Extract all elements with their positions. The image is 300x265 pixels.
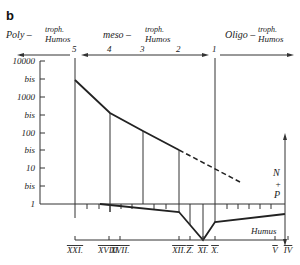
right-axis-up-arrow (283, 133, 287, 140)
stage-2: 2 (176, 44, 181, 54)
header-oligo: Oligo – troph. Humos (225, 25, 284, 44)
bottom-label: IV (283, 245, 294, 255)
bottom-label: Z. (186, 245, 193, 255)
np-label-plus: + (275, 179, 281, 189)
header-arrows (17, 53, 294, 57)
meso-arrow-right-head (202, 53, 209, 57)
y-ticks: 10000bis1000bis100bis10bis1 (13, 56, 46, 209)
y-tick-label: bis (24, 74, 35, 84)
stage-4: 4 (107, 44, 112, 54)
oligo-prefix: Oligo – (225, 29, 256, 40)
y-tick-label: 1 (31, 199, 36, 209)
y-tick-label: bis (24, 110, 35, 120)
meso-prefix: meso – (103, 29, 132, 40)
stage-5: 5 (72, 44, 77, 54)
y-tick-label: 10 (26, 163, 36, 173)
meso-bottom: Humos (144, 34, 171, 44)
bottom-label: X. (210, 245, 219, 255)
panel-label: b (6, 8, 14, 23)
poly-bottom: Humos (44, 34, 71, 44)
oligo-bottom: Humos (257, 34, 284, 44)
y-tick-label: 10000 (13, 56, 36, 66)
poly-top: troph. (45, 25, 64, 34)
np-label-n: N (272, 167, 281, 178)
bottom-labels: XXI.XVIII.XVII.XII.Z.XI.X.VIV (66, 236, 294, 255)
y-tick-label: bis (24, 145, 35, 155)
bottom-label: XVII. (109, 245, 129, 255)
y-tick-label: bis (24, 181, 35, 191)
np-label-p: P (273, 189, 280, 200)
stage-3: 3 (139, 44, 145, 54)
stage-1: 1 (212, 44, 217, 54)
header-meso: meso – troph. Humos (103, 25, 171, 44)
y-tick-label: 1000 (17, 92, 36, 102)
humus-label: Humus (250, 226, 277, 236)
np-curve-dashed (179, 150, 240, 182)
meso-top: troph. (145, 25, 164, 34)
np-curve (75, 80, 179, 150)
bottom-label: XII. (171, 245, 186, 255)
y-tick-label: 100 (22, 128, 36, 138)
oligo-arrow-head (287, 53, 294, 57)
oligo-top: troph. (258, 25, 277, 34)
meso-arrow-left-head (81, 53, 88, 57)
poly-prefix: Poly – (5, 29, 33, 40)
header-poly: Poly – troph. Humos (5, 25, 71, 44)
bottom-label: V (272, 245, 279, 255)
bottom-label: XI. (197, 245, 209, 255)
trophic-humus-diagram: b Poly – troph. Humos meso – troph. Humo… (0, 0, 300, 265)
bottom-label: XXI. (66, 245, 83, 255)
